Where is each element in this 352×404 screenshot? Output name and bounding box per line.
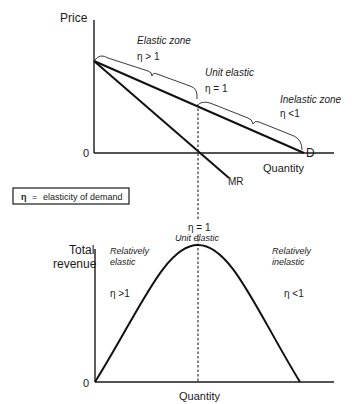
left-region-condition: η >1 [110, 288, 130, 299]
total-revenue-label-line2: revenue [53, 257, 97, 271]
elastic-zone-label: Elastic zone [137, 35, 191, 46]
top-origin-label: 0 [83, 147, 89, 159]
inelastic-zone-label: Inelastic zone [280, 94, 342, 105]
legend-equals: = [32, 192, 37, 202]
divider-label: η = 1 [188, 222, 211, 233]
right-region-condition: η <1 [284, 288, 304, 299]
elastic-zone-condition: η > 1 [137, 51, 160, 62]
inelastic-zone-condition: η <1 [280, 108, 300, 119]
top-chart: Price 0 Quantity D MR Elastic zone η > 1… [60, 11, 342, 187]
unit-elastic-zone-label: Unit elastic [205, 67, 254, 78]
legend: η = elasticity of demand [13, 188, 129, 204]
marginal-revenue-curve [94, 61, 229, 178]
unit-elastic-zone-condition: η = 1 [205, 83, 228, 94]
right-region-line2: inelastic [272, 257, 305, 267]
elastic-zone-brace [95, 56, 197, 99]
peak-label: Unit elastic [175, 233, 220, 243]
legend-text: elasticity of demand [43, 192, 123, 202]
demand-label: D [306, 146, 315, 160]
legend-symbol: η [21, 192, 27, 202]
left-region-line2: elastic [110, 257, 136, 267]
left-region-line1: Relatively [110, 246, 150, 256]
top-quantity-label: Quantity [263, 162, 304, 174]
price-axis-label: Price [60, 11, 88, 25]
elasticity-diagram: Price 0 Quantity D MR Elastic zone η > 1… [0, 0, 352, 404]
total-revenue-label-line1: Total [69, 243, 94, 257]
demand-curve [94, 61, 304, 153]
mr-label: MR [228, 176, 244, 187]
right-region-line1: Relatively [272, 246, 312, 256]
bottom-quantity-label: Quantity [179, 390, 220, 402]
bottom-chart: Total revenue 0 Quantity Unit elastic Re… [53, 233, 334, 402]
bottom-origin-label: 0 [83, 377, 89, 389]
